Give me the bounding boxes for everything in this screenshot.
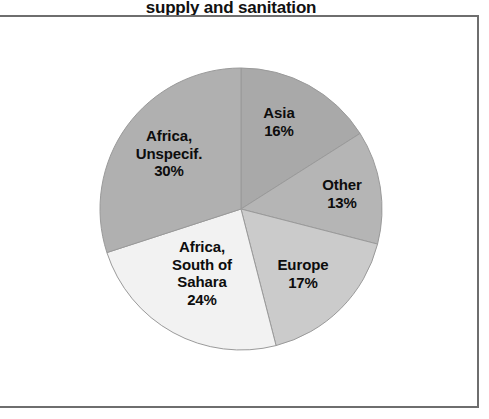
pie-slice-label-other: Other 13% <box>300 176 384 211</box>
chart-page: supply and sanitation Asia 16% Other 13%… <box>0 0 489 419</box>
frame-bottom-rule <box>0 406 479 408</box>
pie-slice-label-africa-south-of-sahara: Africa, South of Sahara 24% <box>146 238 258 309</box>
pie-slice-label-africa-unspecified: Africa, Unspecif. 30% <box>108 127 230 180</box>
pie-slice-label-asia: Asia 16% <box>234 104 324 139</box>
frame-top-rule <box>0 15 479 17</box>
pie-slice-label-europe: Europe 17% <box>256 256 350 291</box>
frame-right-rule <box>477 15 479 408</box>
